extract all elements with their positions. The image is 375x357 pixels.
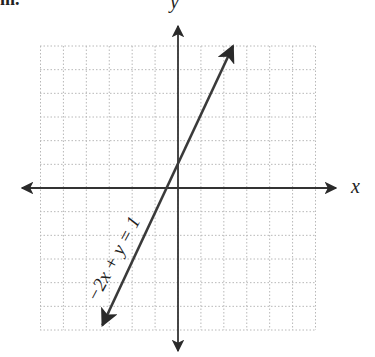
y-axis-label: y [168,0,179,13]
coordinate-plane: x y −2x + y = 1 [0,0,375,357]
x-axis-label: x [350,175,360,197]
equation-line [102,46,233,325]
